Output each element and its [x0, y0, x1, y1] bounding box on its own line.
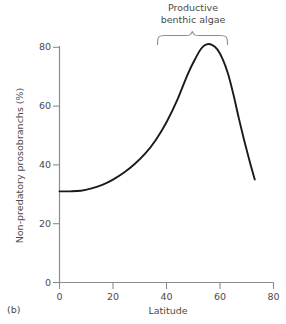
x-axis-title: Latitude	[98, 305, 238, 316]
panel-label: (b)	[7, 304, 20, 315]
y-axis-ticks	[53, 47, 60, 282]
figure-panel-b: Productive benthic algae 0	[0, 0, 286, 324]
x-axis-ticks	[60, 283, 274, 290]
x-tick-label-60: 60	[208, 291, 232, 302]
data-series-line	[60, 44, 255, 191]
brace-icon	[158, 32, 228, 45]
y-axis-title: Non-predatory prosobranchs (%)	[14, 81, 25, 251]
x-tick-label-80: 80	[262, 291, 286, 302]
x-tick-label-20: 20	[101, 291, 125, 302]
y-tick-label-80: 80	[27, 41, 51, 52]
x-tick-label-40: 40	[155, 291, 179, 302]
y-tick-label-60: 60	[27, 100, 51, 111]
y-tick-label-40: 40	[27, 159, 51, 170]
y-tick-label-0: 0	[27, 277, 51, 288]
y-tick-label-20: 20	[27, 218, 51, 229]
x-tick-label-0: 0	[48, 291, 72, 302]
